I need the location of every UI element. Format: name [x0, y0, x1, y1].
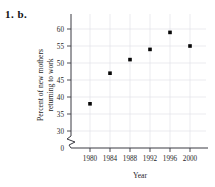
x-tick-label-1996: 1996	[163, 155, 178, 163]
x-axis-title: Year	[133, 171, 147, 180]
y-axis-break-icon	[67, 136, 75, 148]
y-tick-label-45: 45	[57, 77, 65, 85]
x-tick-label-1980: 1980	[83, 155, 98, 163]
y-tick-label-55: 55	[57, 43, 65, 51]
data-point	[88, 102, 92, 106]
y-tick-label-60: 60	[57, 26, 65, 34]
y-tick-label-0: 0	[60, 145, 64, 153]
data-point	[128, 58, 132, 62]
y-tick-label-50: 50	[57, 60, 65, 68]
x-tick-marks	[90, 148, 190, 152]
y-tick-label-35: 35	[57, 111, 65, 119]
data-point	[168, 31, 172, 35]
vertical-gridlines	[90, 14, 190, 148]
y-tick-label-30: 30	[57, 128, 65, 136]
y-axis-title-line1: Percent of new mothers	[36, 49, 45, 121]
data-points	[88, 31, 192, 106]
x-tick-label-1988: 1988	[123, 155, 138, 163]
y-tick-marks	[67, 29, 71, 131]
data-point	[188, 44, 192, 48]
scatter-chart: 60 55 50 45 40 35 30 0 1980 1984 1988 19…	[0, 0, 215, 187]
horizontal-gridlines	[71, 29, 206, 131]
x-tick-label-1992: 1992	[143, 155, 158, 163]
data-point	[148, 48, 152, 52]
x-tick-label-2000: 2000	[183, 155, 198, 163]
data-point	[108, 71, 112, 75]
y-axis-title-line2: returning to work	[46, 58, 55, 111]
y-tick-label-40: 40	[57, 94, 65, 102]
figure-container: 1. b.	[0, 0, 215, 187]
x-tick-label-1984: 1984	[103, 155, 118, 163]
